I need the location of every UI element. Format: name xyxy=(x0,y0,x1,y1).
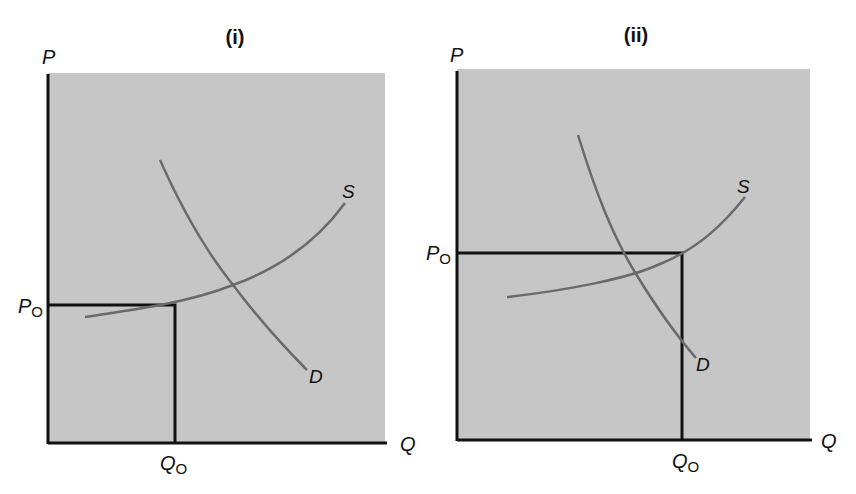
supply-label-ii: S xyxy=(737,176,750,197)
panel-ii: (ii) P Q S D PO QO xyxy=(426,24,837,475)
panel-title-i: (i) xyxy=(226,26,245,48)
price-label-i: PO xyxy=(18,295,43,320)
panel-i: (i) P Q S D PO QO xyxy=(18,26,416,477)
panel-title-ii: (ii) xyxy=(624,24,648,46)
quantity-label-ii: QO xyxy=(672,450,699,475)
demand-label-ii: D xyxy=(696,354,710,375)
y-axis-label-i: P xyxy=(42,46,56,68)
price-label-ii: PO xyxy=(426,242,451,267)
demand-label-i: D xyxy=(309,366,323,387)
x-axis-label-ii: Q xyxy=(821,430,837,452)
y-axis-label-ii: P xyxy=(450,44,464,66)
quantity-label-i: QO xyxy=(160,452,187,477)
plot-area-i xyxy=(48,73,385,443)
x-axis-label-i: Q xyxy=(400,433,416,455)
supply-label-i: S xyxy=(342,181,355,202)
supply-demand-figure: (i) P Q S D PO QO (ii) P Q S xyxy=(0,0,856,494)
